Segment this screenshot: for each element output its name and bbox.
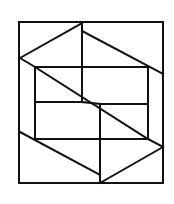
figure-segments bbox=[20, 23, 163, 183]
geometric-figure bbox=[0, 0, 174, 204]
bottom-right-slant-line bbox=[100, 147, 163, 183]
top-left-slant-line bbox=[20, 23, 82, 58]
middle-step-slant-line bbox=[82, 102, 100, 104]
right-lower-short-slant-line bbox=[148, 139, 163, 147]
left-lower-slant-top-line bbox=[20, 58, 35, 67]
